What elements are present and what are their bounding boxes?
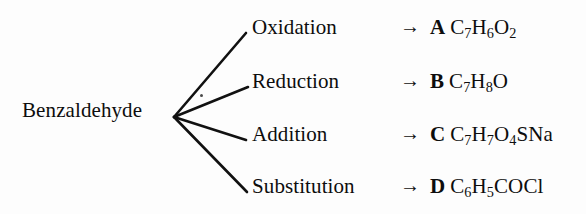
right-arrow-icon: → xyxy=(400,175,430,195)
scan-speck-artifact xyxy=(200,94,203,97)
right-arrow-icon: → xyxy=(400,123,430,143)
reaction-name-substitution: Substitution xyxy=(252,176,400,197)
reaction-row-oxidation: Oxidation → A C7H6O2 xyxy=(252,17,517,47)
product-formula-d: C6H5COCl xyxy=(450,176,543,197)
branch-line-reduction xyxy=(174,87,248,117)
reaction-row-substitution: Substitution → D C6H5COCl xyxy=(252,176,543,206)
reaction-name-reduction: Reduction xyxy=(252,71,400,92)
branch-line-oxidation xyxy=(174,33,246,117)
right-arrow-icon: → xyxy=(400,16,430,36)
reaction-scheme-figure: Benzaldehyde Oxidation → A C7H6O2 Reduct… xyxy=(0,0,586,214)
reaction-name-addition: Addition xyxy=(252,124,400,145)
product-letter-c: C xyxy=(430,124,450,145)
product-letter-b: B xyxy=(430,71,449,92)
product-formula-b: C7H8O xyxy=(449,71,508,92)
reaction-name-oxidation: Oxidation xyxy=(252,17,400,38)
product-formula-a: C7H6O2 xyxy=(450,17,516,38)
branch-line-addition xyxy=(174,117,246,140)
branch-line-substitution xyxy=(174,117,247,192)
right-arrow-icon: → xyxy=(400,70,430,90)
reactant-label: Benzaldehyde xyxy=(22,100,142,121)
product-letter-a: A xyxy=(430,17,450,38)
product-formula-c: C7H7O4SNa xyxy=(450,124,553,145)
reaction-row-addition: Addition → C C7H7O4SNa xyxy=(252,124,553,154)
reaction-row-reduction: Reduction → B C7H8O xyxy=(252,71,508,101)
product-letter-d: D xyxy=(430,176,450,197)
